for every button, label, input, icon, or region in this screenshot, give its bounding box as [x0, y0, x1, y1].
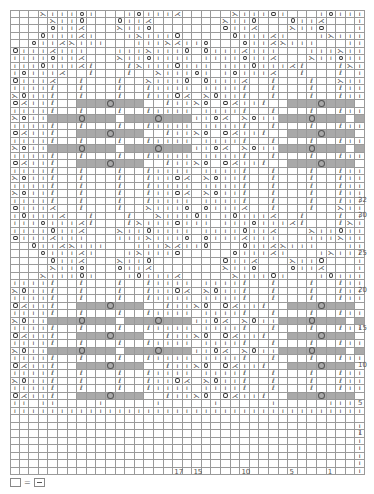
knit-icon: ı — [154, 325, 164, 333]
chart-row: ı — [10, 453, 365, 461]
purl-cell — [240, 438, 250, 446]
no-stitch-cell — [87, 130, 97, 138]
purl-cell — [77, 438, 87, 446]
knit-icon: ı — [336, 33, 346, 41]
purl-cell — [58, 85, 68, 93]
ssk-icon: ⋋ — [39, 10, 49, 18]
purl-cell — [346, 18, 356, 26]
purl-cell — [202, 415, 212, 423]
purl-cell — [327, 93, 337, 101]
purl-cell — [125, 453, 135, 461]
ssk-icon: ⋋ — [336, 48, 346, 56]
purl-cell — [221, 250, 231, 258]
no-stitch-cell — [125, 160, 135, 168]
purl-cell — [183, 25, 193, 33]
purl-cell — [48, 423, 58, 431]
purl-cell — [96, 258, 106, 266]
k2tog-icon: ⋌ — [240, 205, 250, 213]
legend-equals: = — [24, 478, 31, 487]
twisted-stitch-icon: ℓ — [77, 138, 87, 146]
knit-icon: ı — [125, 273, 135, 281]
purl-cell — [96, 168, 106, 176]
purl-cell — [192, 228, 202, 236]
purl-cell — [279, 93, 289, 101]
twisted-stitch-icon: ℓ — [116, 340, 126, 348]
no-stitch-cell — [125, 100, 135, 108]
purl-cell — [269, 423, 279, 431]
no-stitch-cell — [125, 145, 135, 153]
purl-cell — [279, 430, 289, 438]
purl-cell — [87, 175, 97, 183]
purl-cell — [135, 415, 145, 423]
knit-icon: ı — [250, 100, 260, 108]
purl-cell — [106, 153, 116, 161]
knit-icon: ı — [173, 370, 183, 378]
purl-cell — [317, 138, 327, 146]
purl-cell — [68, 100, 78, 108]
no-stitch-cell — [125, 115, 135, 123]
purl-cell — [125, 340, 135, 348]
purl-cell — [346, 430, 356, 438]
purl-cell — [48, 415, 58, 423]
purl-cell — [87, 295, 97, 303]
purl-cell — [173, 453, 183, 461]
purl-cell — [87, 198, 97, 206]
purl-cell — [288, 175, 298, 183]
knit-icon: ı — [346, 385, 356, 393]
purl-cell — [164, 460, 174, 468]
purl-cell — [231, 423, 241, 431]
knit-icon: ı — [240, 408, 250, 416]
knit-icon: ı — [211, 295, 221, 303]
twisted-stitch-icon: ℓ — [116, 108, 126, 116]
purl-cell — [279, 138, 289, 146]
purl-cell — [211, 423, 221, 431]
purl-cell — [298, 378, 308, 386]
no-stitch-cell — [135, 363, 145, 371]
ssk-icon: ⋋ — [192, 160, 202, 168]
purl-cell — [87, 190, 97, 198]
purl-cell — [96, 183, 106, 191]
knit-icon: ı — [144, 220, 154, 228]
knit-icon: ı — [240, 10, 250, 18]
purl-cell — [58, 175, 68, 183]
purl-cell — [298, 183, 308, 191]
purl-cell — [327, 190, 337, 198]
twisted-stitch-icon: ℓ — [116, 93, 126, 101]
knit-icon: ı — [211, 385, 221, 393]
knitting-chart-grid: ⋋ıııııııı⋌⋋ıııııııı⋋ıııı⋌⋋ıııı⋌ııı⋌⋋ıııı… — [10, 10, 365, 475]
knit-icon: ı — [202, 325, 212, 333]
purl-cell — [231, 460, 241, 468]
purl-cell — [144, 438, 154, 446]
purl-cell — [106, 243, 116, 251]
purl-cell — [48, 445, 58, 453]
purl-cell — [106, 235, 116, 243]
purl-cell — [250, 460, 260, 468]
no-stitch-cell — [298, 115, 308, 123]
knit-icon: ı — [317, 273, 327, 281]
purl-cell — [10, 18, 20, 26]
row-number-label: 1 — [358, 429, 362, 437]
purl-cell — [87, 468, 97, 476]
knit-icon: ı — [355, 468, 365, 476]
knit-icon: ı — [144, 250, 154, 258]
purl-cell — [135, 85, 145, 93]
no-stitch-cell — [298, 130, 308, 138]
knit-icon: ı — [211, 153, 221, 161]
purl-cell — [183, 415, 193, 423]
knit-icon: ı — [355, 408, 365, 416]
no-stitch-cell — [77, 393, 87, 401]
knit-icon: ı — [48, 220, 58, 228]
purl-cell — [106, 198, 116, 206]
purl-cell — [183, 445, 193, 453]
knit-icon: ı — [173, 55, 183, 63]
purl-cell — [96, 295, 106, 303]
knit-icon: ı — [20, 340, 30, 348]
purl-cell — [298, 415, 308, 423]
purl-cell — [87, 438, 97, 446]
purl-cell — [96, 198, 106, 206]
purl-cell — [68, 288, 78, 296]
purl-cell — [10, 258, 20, 266]
no-stitch-cell — [125, 333, 135, 341]
legend-purl-icon — [34, 478, 45, 487]
purl-cell — [240, 430, 250, 438]
